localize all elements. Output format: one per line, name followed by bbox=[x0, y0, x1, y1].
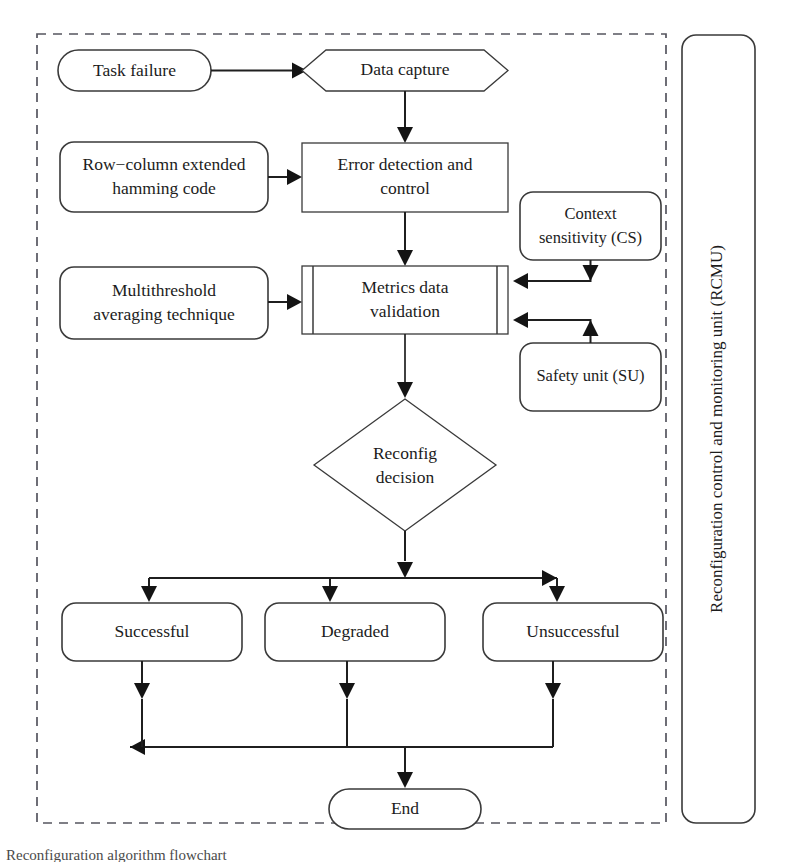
context-sensitivity-label-line1: Context bbox=[564, 204, 617, 223]
arrow-head-left bbox=[513, 273, 528, 289]
degraded-label: Degraded bbox=[321, 621, 389, 641]
edge-multithreshold-to-metrics-validation bbox=[268, 294, 302, 310]
arrow-head-down-successful bbox=[141, 586, 157, 602]
node-data-capture: Data capture bbox=[302, 50, 508, 91]
context-sensitivity-label-line2: sensitivity (CS) bbox=[539, 228, 642, 247]
context-sensitivity-shape bbox=[520, 192, 661, 260]
edge-outcomes-merge-bus bbox=[130, 661, 561, 788]
error-detection-label-line2: control bbox=[380, 178, 430, 198]
arrow-head-down-degraded bbox=[322, 586, 338, 602]
edge-task-failure-to-data-capture bbox=[211, 63, 307, 79]
edge-hamming-code-to-error-detection bbox=[268, 169, 302, 185]
arrow-head-down bbox=[397, 382, 413, 398]
flowchart-canvas: Reconfiguration control and monitoring u… bbox=[0, 0, 794, 862]
unsuccessful-label: Unsuccessful bbox=[526, 621, 619, 641]
multithreshold-shape bbox=[60, 267, 268, 339]
node-hamming-code: Row−column extended hamming code bbox=[60, 142, 268, 212]
node-degraded: Degraded bbox=[265, 603, 445, 661]
node-context-sensitivity: Context sensitivity (CS) bbox=[520, 192, 661, 260]
hamming-code-label-line2: hamming code bbox=[112, 178, 216, 198]
edge-context-sensitivity-to-metrics-validation bbox=[513, 260, 599, 289]
task-failure-label: Task failure bbox=[93, 60, 176, 80]
edge-metrics-validation-to-reconfig-decision bbox=[397, 334, 413, 398]
hamming-code-label-line1: Row−column extended bbox=[83, 154, 246, 174]
reconfig-decision-label-line1: Reconfig bbox=[373, 443, 437, 463]
edge-data-capture-to-error-detection bbox=[397, 91, 413, 143]
arrow-head-right bbox=[287, 169, 302, 185]
arrow-head-left bbox=[513, 312, 528, 328]
metrics-validation-label-line2: validation bbox=[370, 301, 440, 321]
successful-label: Successful bbox=[115, 621, 190, 641]
arrow-head-down bbox=[397, 127, 413, 143]
flowchart-diagram: Reconfiguration control and monitoring u… bbox=[0, 0, 794, 862]
rcmu-panel-label: Reconfiguration control and monitoring u… bbox=[707, 245, 726, 613]
node-rcmu-panel: Reconfiguration control and monitoring u… bbox=[682, 35, 755, 823]
edge-safety-unit-to-metrics-validation bbox=[513, 312, 599, 343]
node-multithreshold: Multithreshold averaging technique bbox=[60, 267, 268, 339]
metrics-validation-label-line1: Metrics data bbox=[362, 277, 449, 297]
node-successful: Successful bbox=[62, 603, 242, 661]
data-capture-label: Data capture bbox=[361, 59, 450, 79]
multithreshold-label-line1: Multithreshold bbox=[112, 280, 216, 300]
arrow-head-down-unsuccessful bbox=[549, 586, 565, 602]
node-error-detection: Error detection and control bbox=[302, 143, 508, 212]
node-unsuccessful: Unsuccessful bbox=[483, 603, 663, 661]
edge-decision-fanout-bus bbox=[141, 531, 565, 602]
node-safety-unit: Safety unit (SU) bbox=[520, 343, 661, 411]
hamming-code-shape bbox=[60, 142, 268, 212]
arrow-head-right bbox=[287, 294, 302, 310]
safety-unit-label: Safety unit (SU) bbox=[536, 366, 644, 385]
node-task-failure: Task failure bbox=[58, 50, 211, 91]
figure-caption: Reconfiguration algorithm flowchart bbox=[6, 845, 227, 862]
arrow-head-down-stem bbox=[397, 562, 413, 578]
reconfig-decision-shape bbox=[314, 399, 496, 531]
edge-path bbox=[528, 260, 591, 281]
node-metrics-validation: Metrics data validation bbox=[302, 266, 508, 334]
edge-path bbox=[528, 320, 591, 343]
arrow-head-down-degraded-merge bbox=[339, 683, 355, 699]
error-detection-label-line1: Error detection and bbox=[337, 154, 472, 174]
end-label: End bbox=[391, 798, 419, 818]
arrow-head-down bbox=[397, 250, 413, 266]
reconfig-decision-label-line2: decision bbox=[376, 467, 435, 487]
arrow-head-down-mid bbox=[583, 265, 599, 281]
node-reconfig-decision: Reconfig decision bbox=[314, 399, 496, 531]
arrow-head-up-mid bbox=[583, 320, 599, 336]
arrow-head-bus-right-end bbox=[542, 570, 557, 586]
node-end: End bbox=[329, 789, 481, 829]
arrow-head-down-unsuccessful-merge bbox=[545, 683, 561, 699]
multithreshold-label-line2: averaging technique bbox=[93, 304, 235, 324]
edge-error-detection-to-metrics-validation bbox=[397, 212, 413, 266]
arrow-head-down-successful-merge bbox=[134, 683, 150, 699]
arrow-head-down-end bbox=[397, 772, 413, 788]
